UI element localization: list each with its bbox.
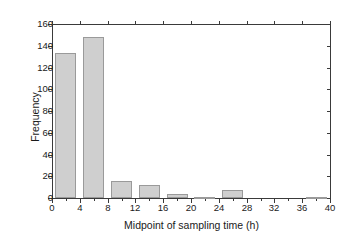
x-minor-tick-mark bbox=[288, 199, 289, 201]
histogram-bar bbox=[55, 53, 76, 198]
x-tick-mark-top bbox=[108, 21, 109, 25]
x-tick-mark-top bbox=[80, 21, 81, 25]
x-tick-mark-top bbox=[330, 21, 331, 25]
y-axis-title: Frequency bbox=[29, 30, 41, 204]
histogram-bar bbox=[83, 37, 104, 198]
x-axis-title: Midpoint of sampling time (h) bbox=[52, 219, 331, 231]
histogram-figure: 020406080100120140160 048121620242832364… bbox=[0, 0, 342, 247]
histogram-bar bbox=[306, 197, 327, 199]
x-tick-mark-top bbox=[247, 21, 248, 25]
x-tick-label: 16 bbox=[152, 203, 174, 213]
x-tick-label: 12 bbox=[124, 203, 146, 213]
x-tick-mark-top bbox=[302, 21, 303, 25]
x-minor-tick-mark bbox=[205, 199, 206, 201]
x-minor-tick-mark bbox=[94, 199, 95, 201]
x-tick-label: 36 bbox=[291, 203, 313, 213]
y-tick-mark-right bbox=[327, 68, 331, 69]
x-tick-mark-top bbox=[52, 21, 53, 25]
x-tick-mark-top bbox=[191, 21, 192, 25]
y-tick-mark-right bbox=[327, 176, 331, 177]
y-tick-mark-right bbox=[327, 46, 331, 47]
x-tick-label: 40 bbox=[319, 203, 341, 213]
x-tick-label: 28 bbox=[236, 203, 258, 213]
x-minor-tick-mark bbox=[233, 199, 234, 201]
x-tick-label: 24 bbox=[208, 203, 230, 213]
histogram-bar bbox=[111, 181, 132, 198]
x-tick-mark-top bbox=[274, 21, 275, 25]
histogram-bar bbox=[222, 190, 243, 198]
y-tick-label: 160 bbox=[19, 19, 53, 29]
histogram-bar bbox=[139, 185, 160, 198]
x-tick-label: 20 bbox=[180, 203, 202, 213]
x-tick-mark-top bbox=[219, 21, 220, 25]
x-tick-label: 32 bbox=[263, 203, 285, 213]
histogram-bar bbox=[167, 194, 188, 198]
histogram-bar bbox=[194, 197, 215, 199]
x-tick-mark-top bbox=[135, 21, 136, 25]
x-minor-tick-mark bbox=[261, 199, 262, 201]
y-tick-mark-right bbox=[327, 133, 331, 134]
y-tick-mark-right bbox=[327, 89, 331, 90]
x-minor-tick-mark bbox=[177, 199, 178, 201]
y-tick-mark-right bbox=[327, 111, 331, 112]
x-minor-tick-mark bbox=[122, 199, 123, 201]
x-tick-mark-top bbox=[163, 21, 164, 25]
y-tick-mark-right bbox=[327, 155, 331, 156]
x-tick-label: 8 bbox=[97, 203, 119, 213]
plot-area: 020406080100120140160 048121620242832364… bbox=[0, 0, 342, 247]
x-tick-label: 4 bbox=[69, 203, 91, 213]
x-tick-label: 0 bbox=[41, 203, 63, 213]
x-minor-tick-mark bbox=[149, 199, 150, 201]
x-minor-tick-mark bbox=[66, 199, 67, 201]
x-minor-tick-mark bbox=[316, 199, 317, 201]
